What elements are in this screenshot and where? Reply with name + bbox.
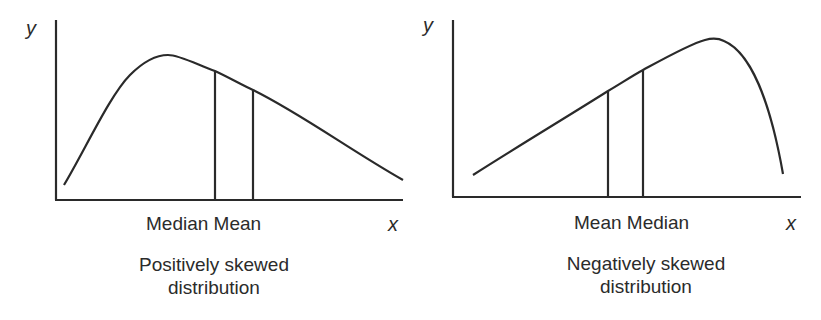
negative-skew-plot [452, 20, 801, 197]
marker-labels-positive: Median Mean [146, 213, 261, 235]
y-axis-label-positive: y [26, 17, 36, 40]
y-axis-label-negative: y [423, 14, 433, 37]
caption-positive: Positively skewed distribution [84, 253, 344, 299]
caption-line-1: Positively skewed [84, 253, 344, 276]
caption-negative: Negatively skewed distribution [516, 252, 776, 298]
x-axis-label-negative: x [786, 212, 796, 235]
positive-skew-plot [55, 20, 403, 200]
caption-line-2: distribution [516, 275, 776, 298]
distribution-curve [473, 39, 783, 175]
distribution-curve [64, 55, 403, 185]
x-axis-label-positive: x [388, 213, 398, 236]
marker-labels-negative: Mean Median [574, 212, 689, 234]
caption-line-1: Negatively skewed [516, 252, 776, 275]
caption-line-2: distribution [84, 276, 344, 299]
